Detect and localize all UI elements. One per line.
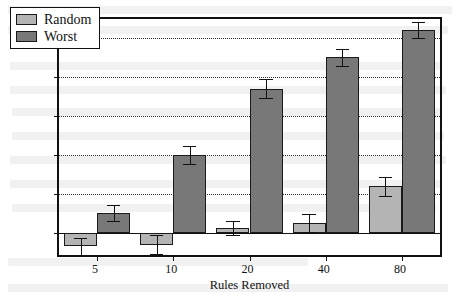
- x-tick-label-80: 80: [394, 262, 406, 277]
- zero-baseline: [59, 233, 440, 234]
- error-cap-lower: [226, 235, 239, 236]
- chart-legend: Random Worst: [10, 7, 100, 49]
- legend-label-random: Random: [44, 13, 91, 27]
- error-bar-random-10: [157, 235, 158, 254]
- error-cap-lower: [74, 255, 87, 256]
- error-bar-worst-5: [114, 205, 115, 221]
- x-tick-mark: [250, 255, 251, 261]
- plot-area: 0%5%10%15%20%25%: [57, 17, 442, 257]
- error-cap-lower: [412, 38, 425, 39]
- bar-worst-10: [173, 155, 206, 233]
- x-tick-mark: [173, 255, 174, 261]
- y-tick-mark: [54, 116, 59, 117]
- gridline-20%: [59, 77, 440, 78]
- error-cap-upper: [183, 146, 196, 147]
- y-tick-mark: [54, 155, 59, 156]
- error-bar-random-20: [233, 221, 234, 235]
- bar-worst-20: [250, 89, 283, 234]
- bar-chart-figure: % Improvement 0%5%10%15%20%25% 510204080…: [0, 0, 458, 300]
- y-tick-mark: [54, 194, 59, 195]
- error-cap-upper: [150, 235, 163, 236]
- error-cap-upper: [412, 22, 425, 23]
- x-tick-mark: [97, 255, 98, 261]
- legend-swatch-worst: [16, 31, 37, 42]
- error-bar-worst-80: [418, 22, 419, 38]
- error-bar-random-80: [385, 177, 386, 196]
- x-tick-label-40: 40: [318, 262, 330, 277]
- error-bar-random-40: [309, 214, 310, 231]
- error-cap-upper: [336, 49, 349, 50]
- error-cap-lower: [336, 66, 349, 67]
- error-cap-lower: [302, 232, 315, 233]
- x-tick-label-5: 5: [92, 262, 98, 277]
- error-bar-worst-20: [266, 79, 267, 98]
- error-cap-upper: [107, 205, 120, 206]
- x-axis-title: Rules Removed: [57, 278, 442, 293]
- y-tick-mark: [54, 77, 59, 78]
- bar-worst-40: [326, 57, 359, 233]
- error-cap-lower: [379, 196, 392, 197]
- error-cap-upper: [259, 79, 272, 80]
- error-cap-upper: [379, 177, 392, 178]
- error-bar-random-5: [81, 238, 82, 255]
- x-tick-mark: [402, 255, 403, 261]
- error-cap-upper: [74, 238, 87, 239]
- error-cap-lower: [107, 221, 120, 222]
- legend-swatch-random: [16, 14, 37, 25]
- legend-label-worst: Worst: [44, 30, 77, 44]
- legend-item-worst: Worst: [16, 28, 91, 45]
- x-tick-label-10: 10: [165, 262, 177, 277]
- y-tick-mark: [54, 233, 59, 234]
- x-tick-mark: [326, 255, 327, 261]
- plot-inner: 0%5%10%15%20%25%: [59, 19, 440, 255]
- x-tick-label-20: 20: [242, 262, 254, 277]
- error-cap-lower: [259, 98, 272, 99]
- error-bar-worst-10: [190, 146, 191, 165]
- bar-worst-80: [402, 30, 435, 233]
- error-cap-upper: [302, 214, 315, 215]
- error-cap-lower: [183, 164, 196, 165]
- error-cap-lower: [150, 254, 163, 255]
- gridline-25%: [59, 38, 440, 39]
- legend-item-random: Random: [16, 11, 91, 28]
- error-cap-upper: [226, 221, 239, 222]
- error-bar-worst-40: [342, 49, 343, 66]
